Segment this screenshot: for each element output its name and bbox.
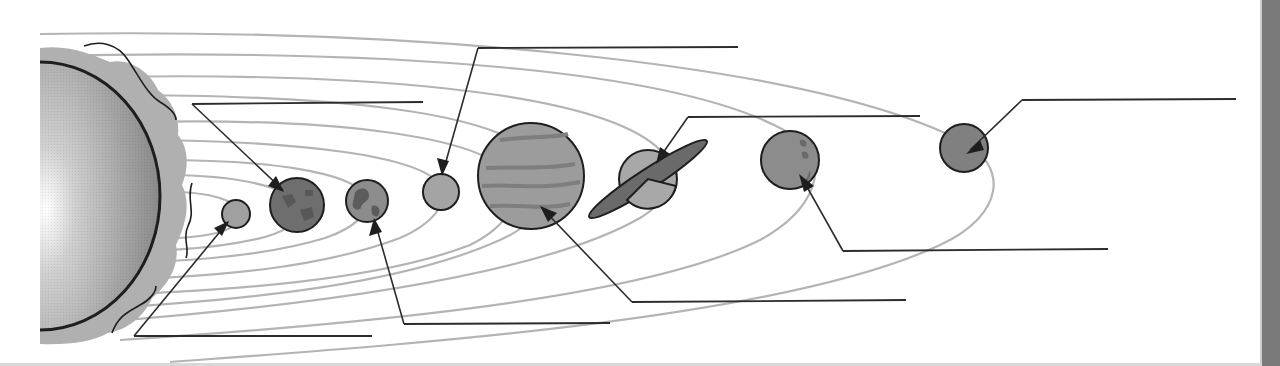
uranus-body [761, 131, 819, 189]
mars-body [423, 174, 459, 210]
earth-body [346, 180, 388, 222]
sun-flare-middle [186, 183, 192, 258]
label-blank-neptune[interactable] [1022, 99, 1236, 100]
planet-earth[interactable] [346, 180, 388, 222]
label-blank-earth[interactable] [404, 323, 610, 324]
label-blank-uranus[interactable] [843, 249, 1108, 251]
label-blank-venus[interactable] [192, 102, 423, 104]
leader-neptune [966, 99, 1236, 154]
sun [40, 43, 192, 344]
planet-uranus[interactable] [761, 131, 819, 189]
planet-jupiter[interactable] [478, 123, 584, 229]
label-blank-saturn[interactable] [688, 116, 920, 117]
page-edge-bar-border [1260, 0, 1262, 366]
label-blank-mars[interactable] [478, 47, 738, 48]
solar-system-diagram [0, 0, 1280, 366]
page-edge-bar [1262, 0, 1280, 366]
leader-uranus [799, 174, 1108, 251]
planet-mars[interactable] [423, 174, 459, 210]
label-blank-jupiter[interactable] [632, 300, 906, 302]
